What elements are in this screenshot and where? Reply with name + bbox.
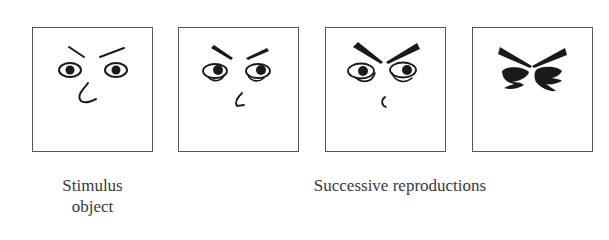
stimulus-caption-line1: Stimulus xyxy=(32,175,153,196)
left-wing-top xyxy=(498,47,532,68)
stimulus-caption-line2: object xyxy=(32,196,153,217)
reproductions-caption: Successive reproductions xyxy=(230,175,570,196)
reproduction-panel-3 xyxy=(472,27,593,152)
stimulus-panel xyxy=(32,27,153,152)
right-eyebrow xyxy=(100,48,124,57)
reproduction-1-face-drawing xyxy=(178,27,299,152)
reproduction-panel-1 xyxy=(178,27,299,152)
right-eyebrow xyxy=(386,43,420,64)
left-eyebrow xyxy=(211,45,233,60)
stimulus-caption: Stimulus object xyxy=(32,175,153,217)
nose xyxy=(382,97,386,107)
reproduction-panel-2 xyxy=(325,27,446,152)
stimulus-face-drawing xyxy=(32,27,153,152)
right-pupil xyxy=(402,65,412,75)
nose xyxy=(235,93,243,106)
right-wing-bottom xyxy=(534,66,562,90)
left-eyebrow xyxy=(353,42,383,64)
reproduction-3-bird-shape xyxy=(472,27,593,152)
left-wing-bottom xyxy=(502,67,529,89)
right-wing-top xyxy=(532,48,567,68)
right-pupil xyxy=(111,65,120,74)
right-pupil xyxy=(256,65,266,75)
left-pupil xyxy=(65,65,74,74)
left-pupil xyxy=(358,66,368,76)
nose xyxy=(79,83,96,102)
left-eyebrow xyxy=(69,47,84,57)
reproduction-2-face-drawing xyxy=(325,27,446,152)
left-pupil xyxy=(213,65,223,75)
right-eyebrow xyxy=(246,48,269,60)
